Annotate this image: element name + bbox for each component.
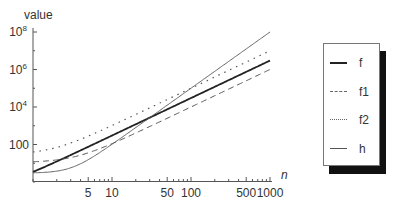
y-tick-label: 100 bbox=[9, 138, 29, 152]
series-line-h bbox=[33, 32, 270, 173]
legend-item-f1: f1 bbox=[330, 85, 376, 99]
legend-item-f2: f2 bbox=[330, 113, 376, 127]
x-tick-label: 5 bbox=[85, 186, 92, 200]
x-tick-label: 10 bbox=[105, 186, 119, 200]
legend-swatch-solid-thick bbox=[330, 62, 347, 64]
y-tick-label: 104 bbox=[9, 99, 27, 114]
x-axis-ticks: 510501005001000 bbox=[33, 177, 284, 200]
legend-label: f2 bbox=[359, 113, 369, 127]
legend-swatch-solid-thin bbox=[330, 148, 347, 149]
series-line-f1 bbox=[33, 70, 270, 162]
legend-item-h: h bbox=[330, 142, 376, 156]
x-tick-label: 500 bbox=[236, 186, 256, 200]
x-tick-label: 1000 bbox=[257, 186, 284, 200]
y-tick-label: 106 bbox=[9, 62, 27, 77]
legend-label: f bbox=[359, 56, 362, 70]
series-lines bbox=[33, 32, 270, 173]
legend: f f1 f2 h bbox=[323, 43, 380, 166]
legend-swatch-dotted bbox=[330, 119, 347, 120]
y-tick-label: 108 bbox=[9, 24, 27, 39]
x-axis-title: n bbox=[281, 168, 288, 182]
legend-label: f1 bbox=[359, 85, 369, 99]
legend-item-f: f bbox=[330, 56, 376, 70]
series-line-f2 bbox=[33, 51, 270, 152]
legend-label: h bbox=[359, 142, 366, 156]
x-tick-label: 100 bbox=[181, 186, 201, 200]
legend-swatch-dashed bbox=[330, 91, 347, 92]
x-tick-label: 50 bbox=[161, 186, 175, 200]
y-axis-title: value bbox=[24, 8, 53, 22]
